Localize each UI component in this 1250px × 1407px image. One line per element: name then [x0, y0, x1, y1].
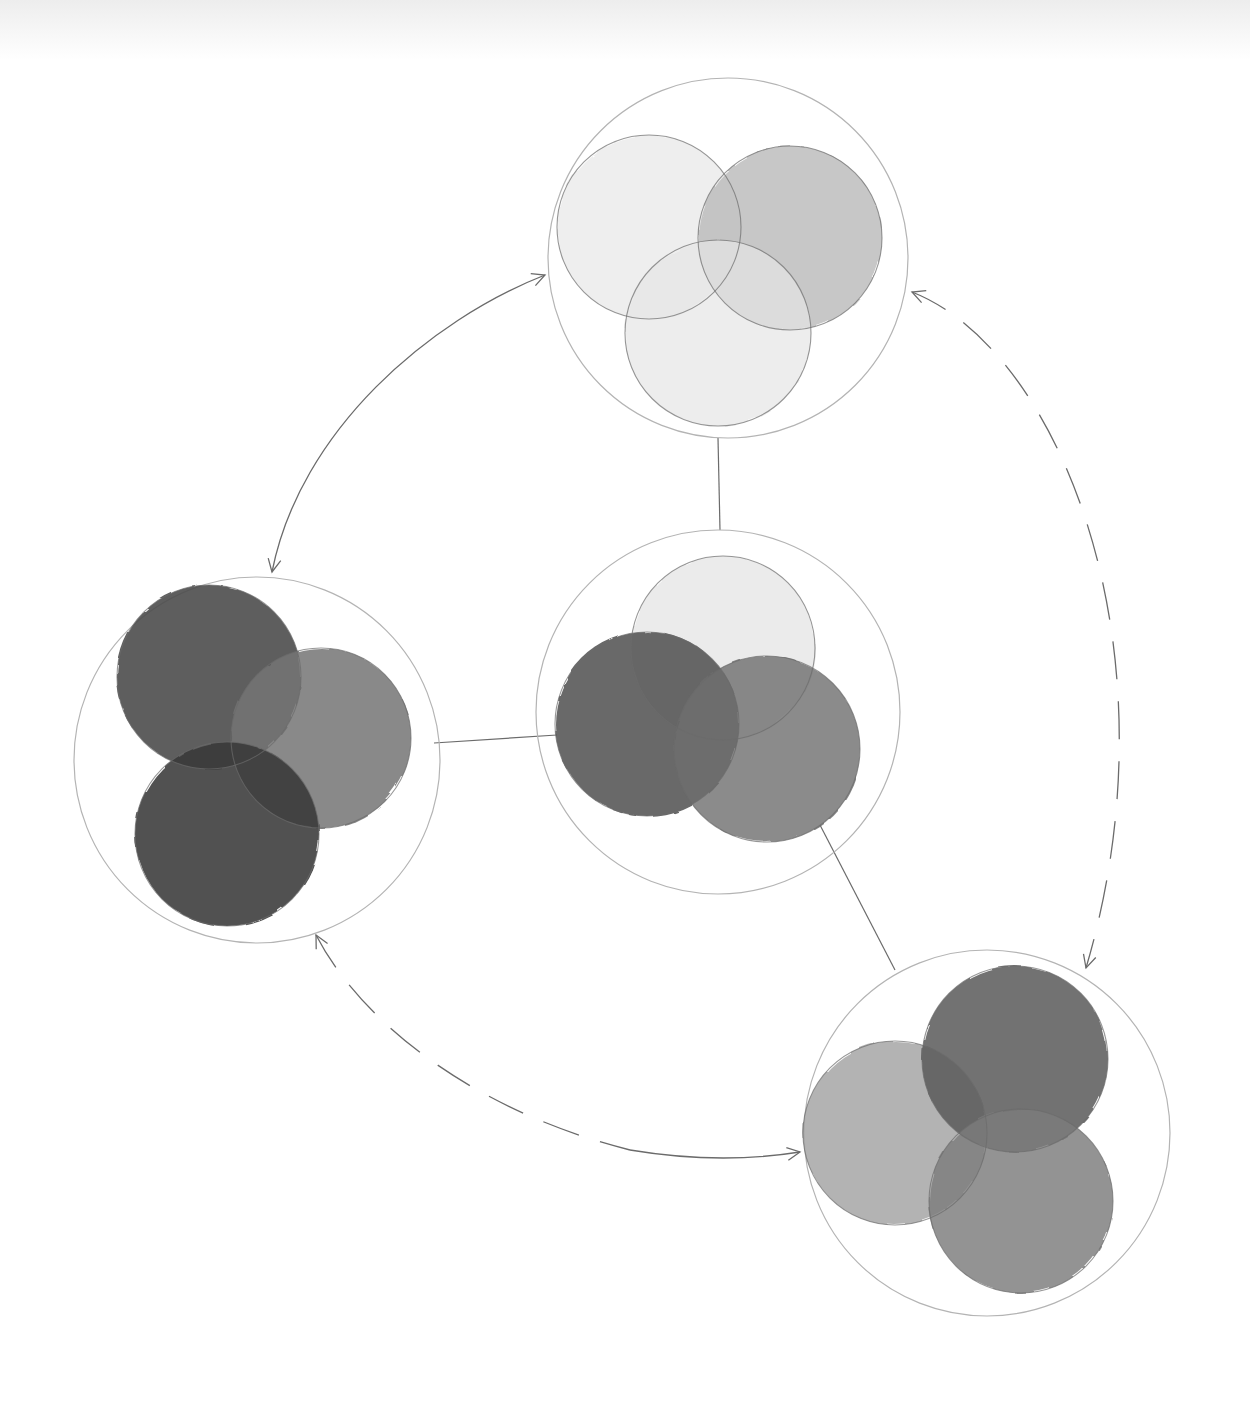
arrow-arc-top-left: [272, 275, 545, 572]
node-top: [548, 78, 908, 438]
cycle-diagram: [0, 0, 1250, 1407]
arrow-arc-to-bottom-right: [630, 1150, 800, 1158]
node-left: [74, 577, 440, 943]
watercolor-disc: [625, 240, 811, 426]
node-bottom-right: [803, 950, 1170, 1316]
nodes: [74, 78, 1170, 1316]
watercolor-disc: [674, 656, 860, 842]
watercolor-disc: [135, 742, 319, 926]
arrow-arc-top-right-dashed: [912, 292, 1119, 968]
connector-top-to-center: [718, 438, 720, 530]
connector-center-to-bottom-right: [820, 825, 895, 970]
arrow-arc-left-bottom-dashed: [316, 935, 630, 1150]
node-center: [536, 530, 900, 894]
